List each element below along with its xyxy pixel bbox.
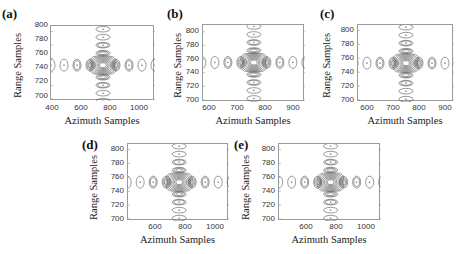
x-tick: 800	[321, 222, 351, 231]
panel-label: (c)	[320, 6, 334, 22]
panel-label: (d)	[82, 137, 98, 153]
panel-label: (e)	[234, 137, 248, 153]
x-tick: 1000	[124, 103, 154, 112]
x-tick: 800	[95, 103, 125, 112]
x-tick: 900	[430, 103, 460, 112]
contour-graphic	[358, 25, 454, 102]
y-tick: 720	[251, 200, 275, 209]
x-tick: 600	[140, 222, 170, 231]
y-axis-label: Range Samples	[88, 155, 99, 220]
x-tick: 600	[194, 103, 224, 112]
y-tick: 720	[175, 81, 199, 90]
contour-plot	[202, 24, 304, 101]
y-tick: 800	[100, 144, 124, 153]
x-tick: 800	[170, 222, 200, 231]
y-axis-label: Range Samples	[240, 155, 251, 220]
x-axis-label: Azimuth Samples	[50, 115, 154, 126]
y-tick: 760	[175, 54, 199, 63]
contour-plot	[127, 143, 228, 220]
y-tick: 720	[100, 200, 124, 209]
contour-plot	[357, 24, 453, 101]
y-tick: 800	[24, 20, 48, 29]
contour-graphic	[279, 144, 381, 221]
y-tick: 760	[24, 48, 48, 57]
y-tick: 760	[330, 53, 354, 62]
contour-graphic	[128, 144, 229, 221]
y-tick: 740	[330, 67, 354, 76]
y-axis-label: Range Samples	[12, 33, 23, 98]
y-tick: 780	[330, 39, 354, 48]
x-tick: 800	[250, 103, 280, 112]
x-tick: 700	[222, 103, 252, 112]
y-tick: 780	[100, 158, 124, 167]
y-tick: 740	[24, 62, 48, 71]
y-tick: 720	[24, 76, 48, 85]
y-tick: 800	[175, 26, 199, 35]
x-axis-label: Azimuth Samples	[357, 115, 453, 126]
x-tick: 600	[66, 103, 96, 112]
y-tick: 700	[100, 214, 124, 223]
x-axis-label: Azimuth Samples	[127, 234, 228, 245]
y-tick: 700	[330, 95, 354, 104]
y-tick: 720	[330, 81, 354, 90]
y-tick: 800	[251, 144, 275, 153]
x-tick: 1000	[200, 222, 230, 231]
x-tick: 600	[291, 222, 321, 231]
contour-graphic	[51, 26, 155, 101]
contour-plot	[278, 143, 380, 220]
x-tick: 900	[278, 103, 308, 112]
x-axis-label: Azimuth Samples	[202, 115, 304, 126]
panel-label: (b)	[167, 6, 183, 22]
panel-label: (a)	[2, 6, 17, 22]
contour-graphic	[203, 25, 305, 102]
x-tick: 1000	[351, 222, 381, 231]
y-tick: 780	[251, 158, 275, 167]
y-tick: 740	[100, 186, 124, 195]
y-tick: 780	[24, 34, 48, 43]
y-tick: 760	[100, 172, 124, 181]
contour-plot	[50, 25, 154, 100]
y-tick: 740	[251, 186, 275, 195]
y-tick: 740	[175, 67, 199, 76]
y-tick: 780	[175, 40, 199, 49]
x-axis-label: Azimuth Samples	[278, 234, 380, 245]
y-tick: 700	[251, 214, 275, 223]
x-tick: 400	[37, 103, 67, 112]
y-tick: 760	[251, 172, 275, 181]
y-tick: 800	[330, 25, 354, 34]
y-tick: 700	[24, 91, 48, 100]
